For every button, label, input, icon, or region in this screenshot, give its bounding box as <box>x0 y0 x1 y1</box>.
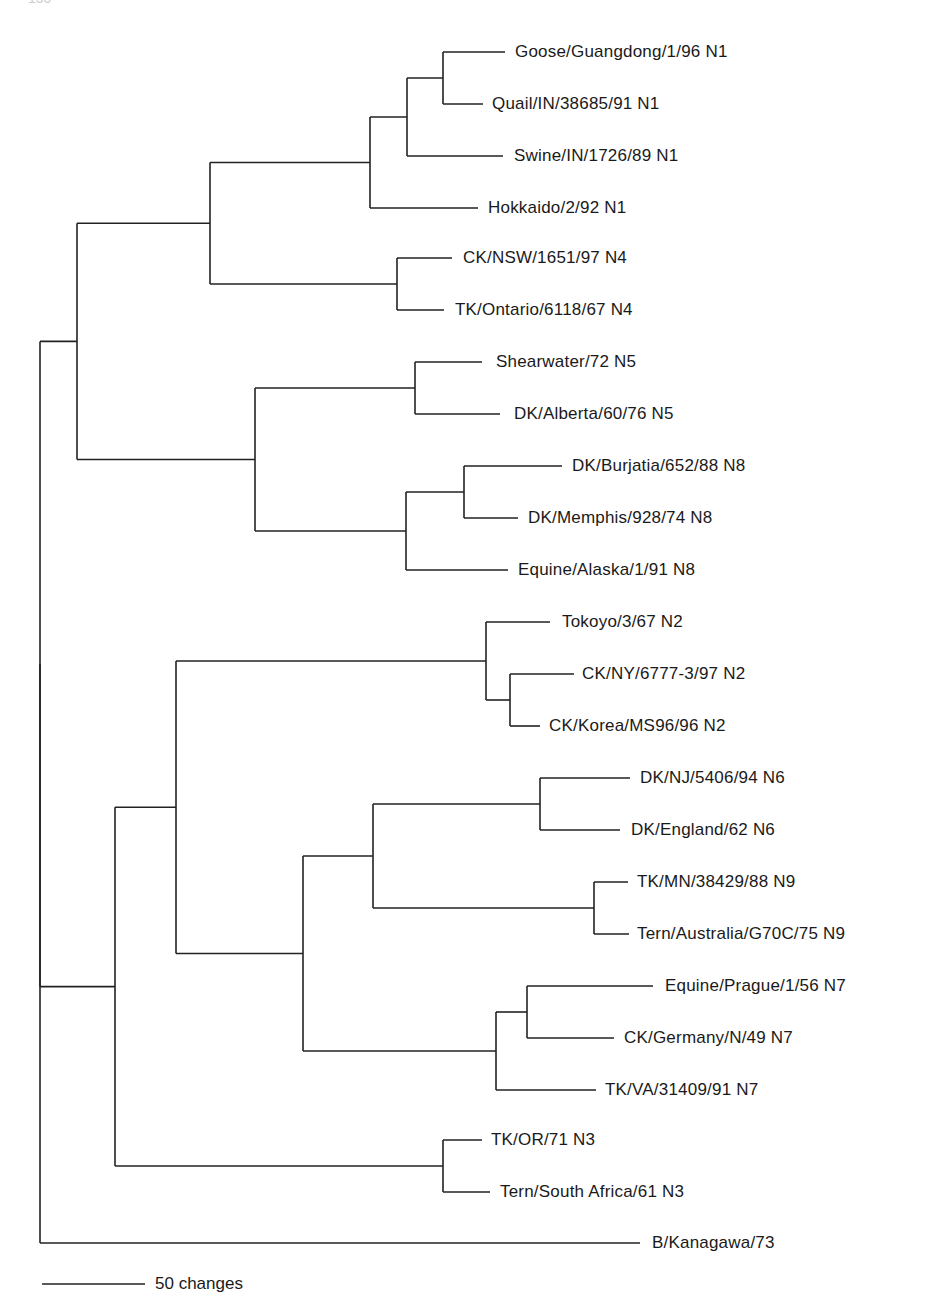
taxon-label: CK/NSW/1651/97 N4 <box>463 248 627 268</box>
taxon-label: Goose/Guangdong/1/96 N1 <box>515 42 728 62</box>
taxon-label: B/Kanagawa/73 <box>652 1233 775 1253</box>
taxon-label: Hokkaido/2/92 N1 <box>488 198 626 218</box>
taxon-label: DK/NJ/5406/94 N6 <box>640 768 785 788</box>
taxon-label: TK/Ontario/6118/67 N4 <box>455 300 633 320</box>
taxon-label: Tokoyo/3/67 N2 <box>562 612 683 632</box>
taxon-label: Tern/Australia/G70C/75 N9 <box>637 924 845 944</box>
taxon-label: Quail/IN/38685/91 N1 <box>492 94 660 114</box>
taxon-label: Shearwater/72 N5 <box>496 352 636 372</box>
taxon-label: DK/Alberta/60/76 N5 <box>514 404 674 424</box>
taxon-label: Swine/IN/1726/89 N1 <box>514 146 678 166</box>
taxon-label: Equine/Prague/1/56 N7 <box>665 976 846 996</box>
taxon-label: CK/Germany/N/49 N7 <box>624 1028 793 1048</box>
taxon-label: TK/VA/31409/91 N7 <box>605 1080 758 1100</box>
taxon-label: CK/Korea/MS96/96 N2 <box>549 716 726 736</box>
phylogenetic-tree <box>0 0 925 1305</box>
scale-bar-label: 50 changes <box>155 1274 243 1294</box>
taxon-label: DK/England/62 N6 <box>631 820 775 840</box>
taxon-label: Equine/Alaska/1/91 N8 <box>518 560 695 580</box>
taxon-label: TK/OR/71 N3 <box>491 1130 595 1150</box>
taxon-label: DK/Memphis/928/74 N8 <box>528 508 712 528</box>
taxon-label: TK/MN/38429/88 N9 <box>637 872 795 892</box>
taxon-label: Tern/South Africa/61 N3 <box>500 1182 684 1202</box>
taxon-label: DK/Burjatia/652/88 N8 <box>572 456 745 476</box>
taxon-label: CK/NY/6777-3/97 N2 <box>582 664 745 684</box>
